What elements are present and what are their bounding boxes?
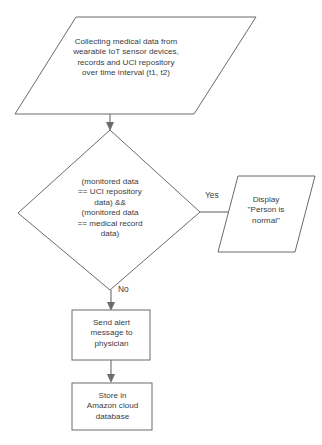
edge-label-yes: Yes xyxy=(205,190,219,200)
edge-label-no: No xyxy=(118,284,129,294)
node-display-shape[interactable] xyxy=(218,176,315,252)
flowchart-canvas: Collecting medical data from wearable Io… xyxy=(0,0,322,445)
node-store-shape[interactable] xyxy=(72,383,152,430)
node-decision-shape[interactable] xyxy=(18,130,200,290)
connector-alert-to-store-arrowhead xyxy=(107,374,115,383)
node-alert-shape[interactable] xyxy=(72,310,150,360)
node-collect-shape[interactable] xyxy=(15,17,256,114)
flowchart-svg xyxy=(0,0,322,445)
